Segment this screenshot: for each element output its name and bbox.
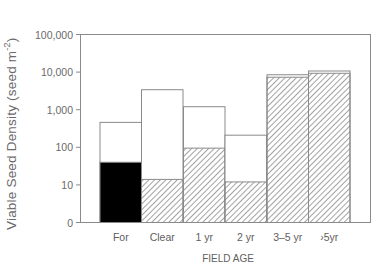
- y-tick-label: 100: [55, 141, 73, 153]
- x-tick-label: Clear: [150, 231, 176, 243]
- x-tick-label: 3–5 yr: [273, 231, 303, 243]
- x-axis: ForClear1 yr2 yr3–5 yr›5yr: [113, 231, 339, 243]
- bar-inner-hatched: [267, 77, 309, 222]
- chart: 0101001,00010,000100,000 ForClear1 yr2 y…: [0, 0, 384, 274]
- y-tick-label: 10: [61, 179, 73, 191]
- y-axis-title-close: ): [4, 38, 19, 43]
- y-tick-label: 1,000: [47, 104, 73, 116]
- x-tick-label: 2 yr: [237, 231, 255, 243]
- y-axis-title-exponent: -2: [2, 42, 12, 50]
- y-tick-label: 0: [67, 217, 73, 229]
- x-tick-label: 1 yr: [195, 231, 213, 243]
- bar-for: [100, 122, 142, 222]
- bar-3-5-yr: [267, 75, 309, 223]
- bar-1-yr: [184, 107, 226, 223]
- x-tick-label: For: [113, 231, 129, 243]
- bar-clear: [142, 90, 184, 223]
- bar--5yr: [309, 71, 351, 223]
- y-axis-title-text: Viable Seed Density (seed m: [4, 51, 19, 230]
- y-tick-label: 10,000: [41, 66, 73, 78]
- x-tick-label: ›5yr: [320, 231, 339, 243]
- bar-2-yr: [225, 135, 267, 222]
- y-axis: 0101001,00010,000100,000: [35, 29, 80, 229]
- bar-inner-hatched: [142, 179, 184, 222]
- bar-inner-hatched: [309, 73, 351, 222]
- y-axis-title: Viable Seed Density (seed m-2): [2, 38, 19, 230]
- y-tick-label: 100,000: [35, 29, 73, 41]
- bars-group: [100, 71, 350, 223]
- bar-inner-hatched: [225, 182, 267, 223]
- bar-inner-hatched: [184, 148, 226, 222]
- x-axis-title: FIELD AGE: [202, 253, 254, 264]
- bar-inner-solid: [100, 162, 142, 222]
